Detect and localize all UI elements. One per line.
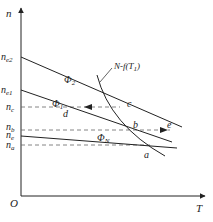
ne1-label: ne1 <box>1 84 13 97</box>
load-curve-leader <box>100 68 112 82</box>
origin-label: O <box>10 197 18 209</box>
arrow-left-icon <box>84 104 92 110</box>
point-e-label: e <box>167 119 172 130</box>
point-a-label: a <box>144 149 149 160</box>
speed-torque-diagram: n T O ne2 ne1 nc nb ne na Φ2 Φ1 ΦN N-f(T… <box>0 0 213 222</box>
point-d-label: d <box>63 108 69 119</box>
y-axis-label: n <box>6 7 12 19</box>
ne2-label: ne2 <box>1 51 13 64</box>
load-curve-label: N-f(T1) <box>113 61 140 73</box>
point-c-label: c <box>127 98 132 109</box>
phi2-label: Φ2 <box>64 74 76 87</box>
x-axis-label: T <box>196 202 203 214</box>
nc-label: nc <box>6 101 15 114</box>
phiN-label: ΦN <box>97 132 110 145</box>
point-b-label: b <box>133 119 138 130</box>
phi1-label: Φ1 <box>52 98 63 111</box>
y-level-labels: ne2 ne1 nc nb ne na <box>1 51 15 152</box>
phi2-line <box>21 57 182 127</box>
